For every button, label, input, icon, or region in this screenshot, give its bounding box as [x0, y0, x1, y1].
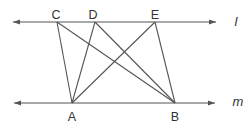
point-label-D: D [88, 8, 97, 22]
line-label-m: m [233, 94, 244, 109]
segment-EA [72, 22, 155, 103]
arrowhead-right-icon-l [209, 19, 216, 24]
point-label-C: C [51, 8, 60, 22]
arrowhead-right-icon-m [208, 100, 215, 105]
segment-DB [95, 22, 175, 103]
segment-CA [57, 22, 72, 103]
diagram-svg: lmCDEAB [0, 0, 244, 127]
point-label-B: B [171, 110, 179, 124]
line-label-l: l [235, 14, 239, 29]
point-label-A: A [68, 110, 77, 124]
geometry-diagram: lmCDEAB [0, 0, 244, 127]
arrowhead-left-icon-m [14, 100, 21, 105]
arrowhead-left-icon-l [13, 19, 20, 24]
segment-CB [57, 22, 175, 103]
point-label-E: E [151, 8, 159, 22]
